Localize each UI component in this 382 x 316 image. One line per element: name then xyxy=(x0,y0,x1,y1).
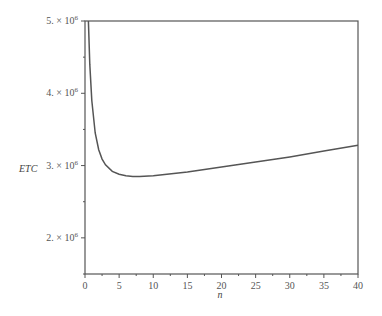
x-tick-label: 10 xyxy=(148,280,158,291)
chart: 2. × 1063. × 1064. × 1065. × 106 0510152… xyxy=(0,0,382,316)
y-tick-label: 4. × 106 xyxy=(46,86,78,98)
x-tick-label: 30 xyxy=(285,280,295,291)
y-tick-label: 2. × 106 xyxy=(46,231,78,243)
y-tick-label: 3. × 106 xyxy=(46,159,78,171)
x-tick-label: 5 xyxy=(117,280,122,291)
x-tick-label: 35 xyxy=(319,280,329,291)
x-axis-title: n xyxy=(218,289,223,300)
x-axis-ticks: 0510152025303540 xyxy=(83,274,364,291)
x-tick-label: 15 xyxy=(182,280,192,291)
y-axis-title: ETC xyxy=(18,163,38,174)
etc-curve xyxy=(88,21,358,176)
y-axis-ticks: 2. × 1063. × 1064. × 1065. × 106 xyxy=(46,14,85,274)
y-tick-label: 5. × 106 xyxy=(46,14,78,26)
x-tick-label: 40 xyxy=(353,280,363,291)
x-tick-label: 0 xyxy=(83,280,88,291)
x-tick-label: 25 xyxy=(251,280,261,291)
plot-frame xyxy=(85,21,358,274)
